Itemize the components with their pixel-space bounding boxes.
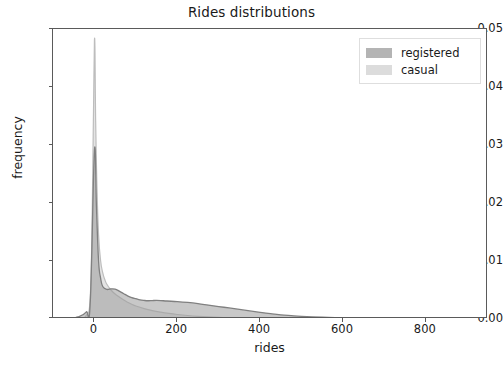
legend-swatch-casual	[366, 65, 392, 75]
chart-title: Rides distributions	[0, 4, 503, 20]
registered-area	[53, 147, 487, 318]
x-tick-label: 0	[68, 322, 118, 336]
x-tick-label: 400	[234, 322, 284, 336]
chart-figure: Rides distributions 0.05 0.04 0.03 0.02 …	[0, 0, 503, 367]
x-tick-label: 600	[317, 322, 367, 336]
x-tick-mark	[93, 318, 94, 322]
x-tick-mark	[176, 318, 177, 322]
x-tick-mark	[425, 318, 426, 322]
legend-item-registered: registered	[366, 44, 474, 61]
x-axis-label: rides	[52, 340, 487, 355]
legend-swatch-registered	[366, 48, 392, 58]
x-tick-mark	[259, 318, 260, 322]
x-tick-label: 800	[400, 322, 450, 336]
legend-label-casual: casual	[401, 63, 438, 77]
x-tick-mark	[342, 318, 343, 322]
legend: registered casual	[359, 38, 481, 84]
legend-label-registered: registered	[401, 46, 459, 60]
x-tick-label: 200	[151, 322, 201, 336]
y-axis-label: frequency	[10, 83, 25, 213]
series-registered-group	[53, 147, 487, 318]
legend-item-casual: casual	[366, 61, 474, 78]
